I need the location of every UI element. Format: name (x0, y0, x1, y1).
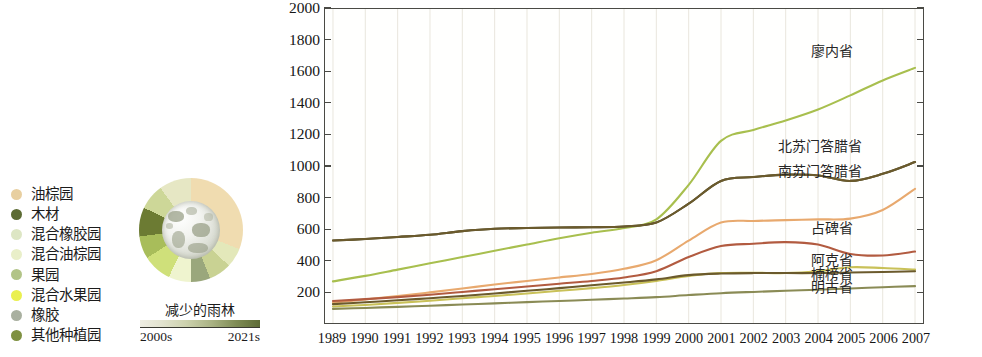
series-label-3: 南苏门答腊省 (778, 164, 862, 178)
x-axis-tick-label: 1998 (610, 330, 638, 347)
legend-item-label: 其他种植园 (31, 328, 101, 343)
legend-item-label: 混合水果园 (31, 288, 101, 303)
x-axis-tick-label: 1991 (383, 330, 411, 347)
scale-end-label: 2021s (228, 329, 260, 345)
legend-color-swatch (11, 330, 22, 341)
y-axis-tick-mark (324, 134, 331, 135)
x-axis-tick-label: 2005 (837, 330, 865, 347)
legend-item-label: 果园 (31, 268, 59, 283)
infographic-root: 油棕园木材混合橡胶园混合油棕园果园混合水果园橡胶其他种植园 减少的雨林 2000… (0, 0, 982, 357)
x-axis-tick-label: 2003 (772, 330, 800, 347)
y-axis-tick-label: 400 (264, 252, 320, 270)
legend-item-label: 混合橡胶园 (31, 227, 101, 242)
y-axis-tick-mark (324, 292, 331, 293)
scale-gradient-bar (140, 320, 260, 328)
y-axis-tick-label: 1800 (264, 31, 320, 49)
legend-item-label: 橡胶 (31, 308, 59, 323)
y-axis-tick-label: 1600 (264, 62, 320, 80)
y-axis-tick-mark-right (917, 102, 924, 103)
y-axis-tick-label: 600 (264, 220, 320, 238)
y-axis-tick-mark-right (917, 165, 924, 166)
x-axis-tick-label: 1995 (512, 330, 540, 347)
legend-item: 混合橡胶园 (6, 224, 136, 244)
y-axis-tick-label: 1000 (264, 157, 320, 175)
legend-color-swatch (11, 290, 22, 301)
y-axis-tick-mark (324, 260, 331, 261)
x-axis-tick-label: 1992 (415, 330, 443, 347)
y-axis-tick-mark-right (917, 197, 924, 198)
series-label-2: 北苏门答腊省 (778, 139, 862, 153)
series-label-5: 阿克省 (811, 253, 853, 267)
y-axis-tick-mark (324, 197, 331, 198)
x-axis-tick-label: 1996 (545, 330, 573, 347)
legend-item: 果园 (6, 265, 136, 285)
legend-item: 混合油棕园 (6, 245, 136, 265)
land-use-legend: 油棕园木材混合橡胶园混合油棕园果园混合水果园橡胶其他种植园 (6, 184, 136, 346)
legend-color-swatch (11, 269, 22, 280)
y-axis-tick-mark-right (917, 260, 924, 261)
y-axis-tick-mark-right (917, 229, 924, 230)
rainforest-loss-donut (139, 178, 243, 282)
y-axis-tick-label: 200 (264, 283, 320, 301)
y-axis-tick-label: 1400 (264, 94, 320, 112)
series-label-7: 明古省 (811, 280, 853, 294)
y-axis-tick-mark-right (917, 292, 924, 293)
legend-item-label: 木材 (31, 207, 59, 222)
y-axis-tick-mark-right (917, 134, 924, 135)
legend-item: 木材 (6, 204, 136, 224)
globe-icon (162, 201, 220, 259)
y-axis-tick-mark (324, 102, 331, 103)
y-axis-tick-mark-right (917, 39, 924, 40)
series-label-1: 廖内省 (811, 44, 853, 58)
x-axis-tick-label: 1993 (448, 330, 476, 347)
legend-color-swatch (11, 249, 22, 260)
legend-item: 油棕园 (6, 184, 136, 204)
legend-color-swatch (11, 310, 22, 321)
legend-color-swatch (11, 189, 22, 200)
x-axis-tick-label: 1994 (480, 330, 508, 347)
y-axis-tick-mark-right (917, 71, 924, 72)
scale-title: 减少的雨林 (140, 303, 260, 317)
x-axis-tick-label: 2000 (675, 330, 703, 347)
x-axis-tick-label: 2004 (804, 330, 832, 347)
y-axis-tick-mark (324, 71, 331, 72)
legend-item: 混合水果园 (6, 285, 136, 305)
y-axis-tick-mark (324, 229, 331, 230)
x-axis-tick-label: 1989 (318, 330, 346, 347)
legend-item: 其他种植园 (6, 325, 136, 345)
y-axis-tick-label: 1200 (264, 125, 320, 143)
legend-item: 橡胶 (6, 305, 136, 325)
scale-start-label: 2000s (140, 329, 172, 345)
x-axis-tick-label: 2007 (902, 330, 930, 347)
legend-panel: 油棕园木材混合橡胶园混合油棕园果园混合水果园橡胶其他种植园 减少的雨林 2000… (0, 0, 260, 357)
x-axis-tick-label: 1999 (642, 330, 670, 347)
y-axis-tick-label: 2000 (264, 0, 320, 17)
x-axis-tick-label: 1997 (577, 330, 605, 347)
rainforest-loss-scale: 减少的雨林 2000s 2021s (140, 303, 260, 345)
y-axis-tick-mark (324, 7, 331, 8)
x-axis-tick-label: 2002 (740, 330, 768, 347)
y-axis-tick-mark (324, 39, 331, 40)
x-axis-tick-label: 1990 (350, 330, 378, 347)
deforestation-line-chart: 200400600800100012001400160018002000 198… (264, 0, 982, 357)
scale-endpoints: 2000s 2021s (140, 329, 260, 345)
series-label-4: 占碑省 (811, 221, 853, 235)
x-axis-tick-label: 2001 (707, 330, 735, 347)
x-axis-tick-label: 2006 (869, 330, 897, 347)
y-axis-tick-mark-right (917, 7, 924, 8)
y-axis-tick-mark (324, 165, 331, 166)
legend-item-label: 油棕园 (31, 187, 73, 202)
legend-color-swatch (11, 209, 22, 220)
y-axis-tick-label: 800 (264, 189, 320, 207)
legend-item-label: 混合油棕园 (31, 247, 101, 262)
legend-color-swatch (11, 229, 22, 240)
